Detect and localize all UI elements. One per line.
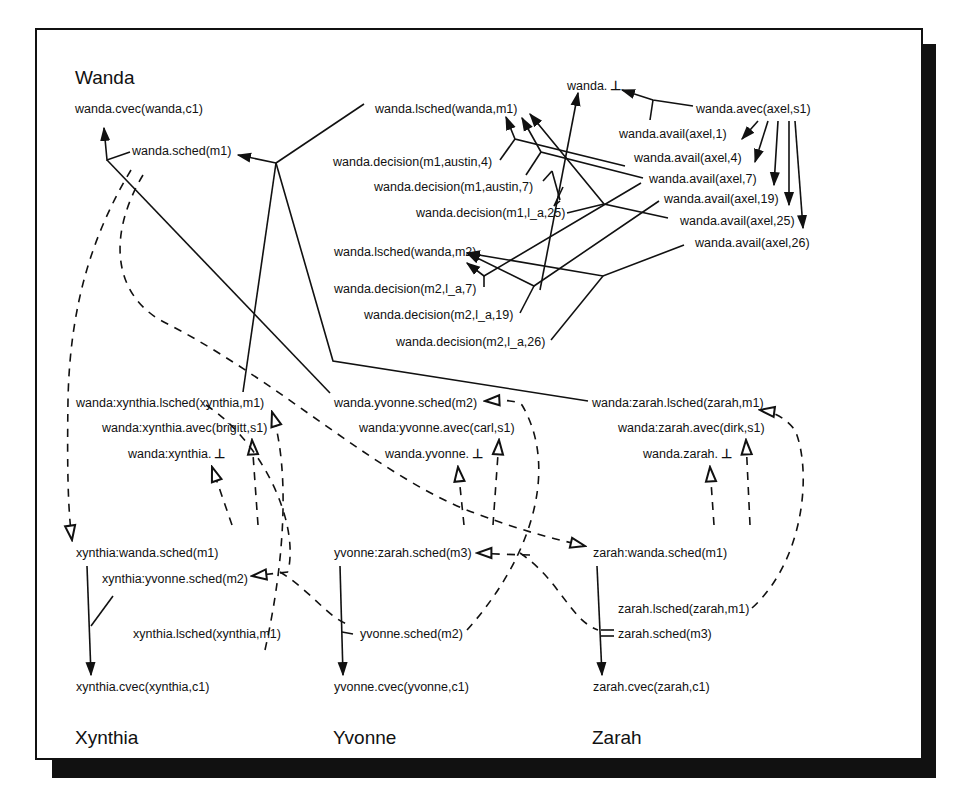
causality-diagram: Wanda Xynthia Yvonne Zarah wanda.cvec(wa… (0, 0, 956, 797)
node-wanda-zarah-bottom: wanda.zarah.⊥ (642, 447, 732, 461)
node-wanda-avail-4: wanda.avail(axel,4) (633, 151, 742, 165)
node-wanda-xynthia-lsched: wanda:xynthia.lsched(xynthia,m1) (75, 396, 264, 410)
node-wanda-yvonne-avec: wanda:yvonne.avec(carl,s1) (358, 421, 515, 435)
node-wanda-decision-m2-la-19: wanda.decision(m2,l_a,19) (363, 308, 513, 322)
node-wanda-yvonne-bottom: wanda.yvonne.⊥ (384, 447, 483, 461)
node-wanda-avail-19: wanda.avail(axel,19) (663, 192, 779, 206)
node-wanda-decision-m2-la-26: wanda.decision(m2,l_a,26) (395, 335, 545, 349)
node-wanda-lsched-m2: wanda.lsched(wanda,m2) (333, 245, 476, 259)
node-wanda-avail-25: wanda.avail(axel,25) (679, 214, 795, 228)
node-zarah-lsched: zarah.lsched(zarah,m1) (618, 602, 749, 616)
node-wanda-avail-26: wanda.avail(axel,26) (694, 236, 810, 250)
node-wanda-sched-m1: wanda.sched(m1) (131, 144, 231, 158)
node-wanda-decision-m2-la-7: wanda.decision(m2,l_a,7) (333, 282, 476, 296)
node-wanda-zarah-lsched: wanda:zarah.lsched(zarah,m1) (591, 396, 764, 410)
node-wanda-avec: wanda.avec(axel,s1) (695, 102, 811, 116)
node-zarah-wanda-sched: zarah:wanda.sched(m1) (593, 546, 727, 560)
node-wanda-zarah-avec: wanda:zarah.avec(dirk,s1) (617, 421, 765, 435)
node-wanda-bottom: wanda.⊥ (566, 79, 621, 93)
node-wanda-cvec: wanda.cvec(wanda,c1) (74, 102, 203, 116)
node-wanda-avail-1: wanda.avail(axel,1) (618, 127, 727, 141)
site-title-wanda: Wanda (75, 67, 135, 88)
node-wanda-decision-m1-austin-7: wanda.decision(m1,austin,7) (373, 180, 533, 194)
node-xynthia-wanda-sched: xynthia:wanda.sched(m1) (76, 546, 218, 560)
node-wanda-lsched-m1: wanda.lsched(wanda,m1) (374, 102, 517, 116)
node-yvonne-sched: yvonne.sched(m2) (360, 627, 463, 641)
node-yvonne-cvec: yvonne.cvec(yvonne,c1) (334, 680, 469, 694)
node-wanda-avail-7: wanda.avail(axel,7) (648, 172, 757, 186)
node-zarah-cvec: zarah.cvec(zarah,c1) (593, 680, 710, 694)
site-title-zarah: Zarah (592, 727, 642, 748)
node-zarah-sched: zarah.sched(m3) (618, 627, 712, 641)
node-wanda-decision-m1-la-25: wanda.decision(m1,l_a,25) (415, 206, 565, 220)
node-wanda-xynthia-bottom: wanda:xynthia.⊥ (127, 447, 225, 461)
node-yvonne-zarah-sched: yvonne:zarah.sched(m3) (334, 546, 472, 560)
node-wanda-yvonne-sched: wanda.yvonne.sched(m2) (333, 396, 477, 410)
node-xynthia-yvonne-sched: xynthia:yvonne.sched(m2) (102, 572, 248, 586)
site-title-yvonne: Yvonne (333, 727, 396, 748)
node-wanda-decision-m1-austin-4: wanda.decision(m1,austin,4) (332, 155, 492, 169)
node-xynthia-cvec: xynthia.cvec(xynthia,c1) (76, 680, 209, 694)
node-xynthia-lsched: xynthia.lsched(xynthia,m1) (133, 627, 281, 641)
site-title-xynthia: Xynthia (75, 727, 139, 748)
node-wanda-xynthia-avec: wanda:xynthia.avec(brigitt,s1) (101, 421, 267, 435)
